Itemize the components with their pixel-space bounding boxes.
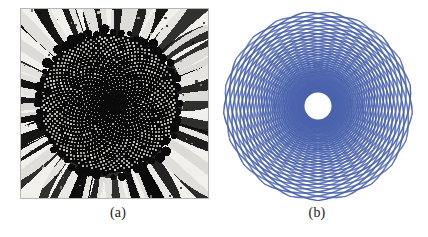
sunflower-photograph [20,8,209,199]
figure-root: (a) (b) [0,0,428,237]
panel-b-caption: (b) [257,204,377,222]
panel-b [220,8,416,204]
phyllotaxis-spiral-diagram [220,8,416,204]
panel-a-caption: (a) [58,204,178,222]
panel-a [20,8,209,199]
